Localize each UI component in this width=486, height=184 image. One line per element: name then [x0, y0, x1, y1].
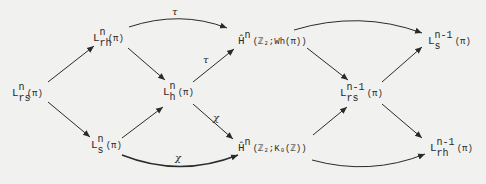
node-sup: n [19, 82, 25, 93]
node-L-rs-n-minus-1: Ln-1rs(π) [340, 88, 383, 99]
arrow-lrsn1-to-lrhn1 [382, 104, 422, 138]
node-base: Ĥ [238, 35, 245, 47]
arrow-ls-to-lh [122, 107, 163, 138]
node-arg: (ℤ₂;K₀(ℤ)) [253, 144, 307, 154]
node-sup: n [170, 81, 176, 92]
node-arg: (π) [457, 144, 473, 154]
node-L-h-n: Lnh(π) [163, 87, 194, 98]
label-tau-top: τ [172, 6, 178, 17]
arrow-hk0-to-lrsn1 [313, 107, 347, 135]
node-base: L [428, 35, 435, 47]
node-sup: n-1 [437, 137, 455, 148]
node-sup: n [98, 134, 104, 145]
arrow-lrh-to-lh [128, 48, 165, 80]
arrow-lh-to-hwh [193, 49, 234, 82]
node-sub: s [98, 146, 104, 156]
arrow-lrs-to-lrh [48, 46, 94, 82]
node-base: Ĥ [238, 142, 245, 154]
node-H-hat-K0: Ĥn(ℤ₂;K₀(ℤ)) [238, 143, 307, 154]
node-L-s-n-minus-1: Ln-1s(π) [428, 36, 471, 47]
arrow-lrh-to-hwh-curved [129, 19, 227, 28]
node-base: L [91, 139, 98, 151]
node-arg: (π) [367, 89, 383, 99]
node-base: L [340, 87, 347, 99]
arrow-hk0-to-lrhn1-curved [312, 154, 425, 167]
arrow-hwh-to-lrsn1 [307, 48, 348, 80]
node-L-s-n: Lns(π) [91, 140, 122, 151]
node-sub: rh [100, 39, 112, 49]
node-base: L [93, 32, 100, 44]
node-sub: rs [19, 94, 31, 104]
node-sub: rh [437, 149, 449, 159]
commutative-diagram-arrows [0, 0, 486, 184]
label-chi-bottom: χ [175, 152, 181, 163]
node-sup: n [245, 30, 251, 41]
node-sup: n [245, 137, 251, 148]
label-tau-mid: τ [203, 54, 209, 65]
node-arg: (ℤ₂;Wh(π)) [253, 37, 307, 47]
node-sup: n-1 [435, 30, 453, 41]
node-arg: (π) [106, 141, 122, 151]
node-H-hat-Wh: Ĥn(ℤ₂;Wh(π)) [238, 36, 307, 47]
node-L-rh-n: Lnrh(π) [93, 33, 124, 44]
arrow-lrs-to-ls [48, 102, 90, 137]
label-chi-mid: χ [213, 112, 219, 123]
node-sub: rs [347, 94, 359, 104]
node-sub: s [435, 42, 441, 52]
node-sup: n [100, 27, 106, 38]
node-base: L [163, 86, 170, 98]
node-L-rs-n: Lnrs(π) [12, 88, 43, 99]
node-arg: (π) [178, 88, 194, 98]
node-sub: h [170, 93, 176, 103]
arrow-hwh-to-lsn1-curved [294, 21, 422, 33]
node-L-rh-n-minus-1: Ln-1rh(π) [430, 143, 473, 154]
node-sup: n-1 [347, 82, 365, 93]
node-base: L [12, 87, 19, 99]
node-base: L [430, 142, 437, 154]
node-arg: (π) [455, 37, 471, 47]
arrow-lrsn1-to-lsn1 [382, 47, 422, 82]
